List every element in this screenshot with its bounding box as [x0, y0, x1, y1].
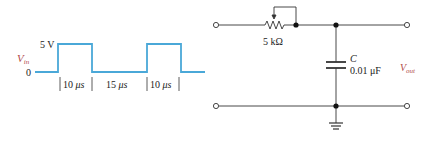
wiper-arrow-icon: [272, 15, 276, 19]
junction-dot: [333, 103, 338, 108]
high-level-label: 5 V: [40, 39, 55, 50]
resistor-label: 5 kΩ: [263, 36, 283, 47]
input-terminal-bottom: [213, 103, 218, 108]
output-terminal-top: [404, 22, 409, 27]
square-pulse-trace: [35, 44, 205, 72]
ground-icon: [329, 123, 343, 129]
input-terminal-top: [213, 22, 218, 27]
wiper-wire: [274, 7, 296, 25]
vout-label: Vout: [400, 62, 416, 75]
junction-dot: [293, 22, 298, 27]
interval-label-3: 10 μs: [150, 79, 172, 90]
capacitor-value-label: 0.01 μF: [350, 65, 381, 76]
zero-level-label: 0: [26, 67, 31, 78]
junction-dot: [333, 22, 338, 27]
potentiometer-icon: [265, 21, 284, 29]
rc-circuit-diagram: Vin 5 V 0 10 μs 15 μs 10 μs: [0, 0, 427, 143]
capacitor-name-label: C: [350, 53, 357, 64]
input-waveform: Vin 5 V 0 10 μs 15 μs 10 μs: [17, 39, 205, 91]
output-terminal-bottom: [404, 103, 409, 108]
interval-label-2: 15 μs: [106, 79, 128, 90]
vin-label: Vin: [17, 52, 30, 66]
interval-label-1: 10 μs: [63, 79, 85, 90]
